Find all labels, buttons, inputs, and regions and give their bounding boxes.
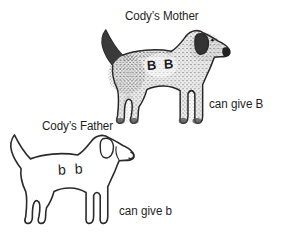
mother-dog-hindleg-shading [122,94,134,122]
mother-dog-frontleg-shading [186,90,196,122]
mother-dog-paw-shading [179,118,188,124]
mother-dog-paw-shading [130,118,139,124]
mother-alleles: B B [147,56,174,73]
mother-dog-icon [96,27,233,128]
father-alleles: b b [58,160,83,177]
mother-dog-ear [195,34,209,55]
mother-dog-paw-shading [192,118,201,124]
mother-dog-eye [211,39,214,42]
father-caption: can give b [119,204,172,218]
mother-dog-paw-shading [116,118,125,124]
father-label: Cody’s Father [42,119,113,133]
mother-label: Cody’s Mother [125,9,199,23]
father-dog-ear [100,138,113,158]
father-dog-icon [5,132,137,228]
genetics-figure: Cody’s Mother [0,0,282,236]
mother-caption: can give B [209,97,263,111]
